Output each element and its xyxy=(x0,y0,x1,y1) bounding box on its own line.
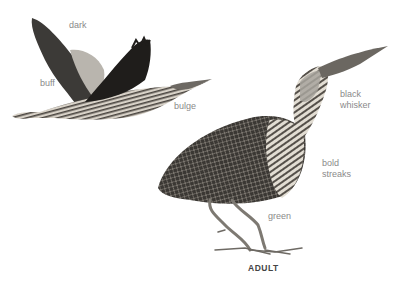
standing-bittern xyxy=(158,46,388,254)
label-green: green xyxy=(268,211,291,221)
label-black: black xyxy=(340,89,361,99)
label-streaks: streaks xyxy=(322,169,351,179)
label-bold: bold xyxy=(322,158,339,168)
label-dark: dark xyxy=(69,20,87,30)
label-buff: buff xyxy=(40,78,55,88)
bird-illustration xyxy=(0,0,418,288)
caption-adult: ADULT xyxy=(248,263,279,273)
label-whisker: whisker xyxy=(340,100,371,110)
label-bulge: bulge xyxy=(174,101,196,111)
